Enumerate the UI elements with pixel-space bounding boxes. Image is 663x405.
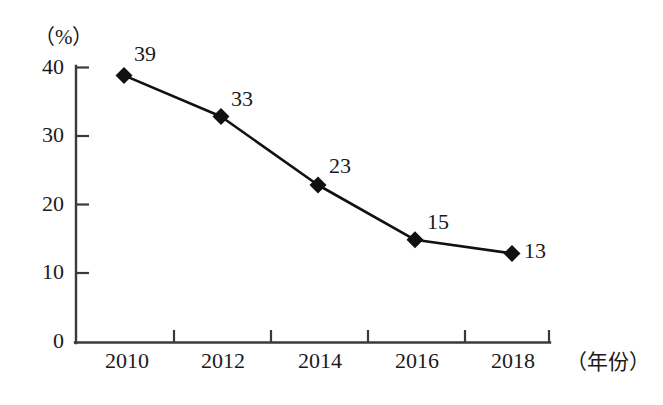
chart-background [0,0,663,405]
y-tick-label-30: 30 [18,122,64,148]
y-axis-unit-label: （%） [34,20,94,50]
y-tick-label-20: 20 [18,191,64,217]
x-tick-label-2012: 2012 [183,348,263,374]
y-tick-label-0: 0 [18,328,64,354]
x-axis-unit-label: （年份） [566,345,650,375]
chart-figure: （%） （年份） 40 30 20 10 0 2010 2012 2014 20… [0,0,663,405]
line-chart-canvas [0,0,663,405]
data-label-2010: 39 [134,41,156,67]
x-tick-label-2016: 2016 [377,348,457,374]
x-tick-label-2010: 2010 [87,348,167,374]
x-tick-label-2014: 2014 [280,348,360,374]
data-label-2016: 15 [427,209,449,235]
data-label-2012: 33 [231,86,253,112]
y-tick-label-10: 10 [18,259,64,285]
data-label-2018: 13 [524,238,546,264]
y-tick-label-40: 40 [18,54,64,80]
data-label-2014: 23 [329,153,351,179]
x-tick-label-2018: 2018 [473,348,553,374]
